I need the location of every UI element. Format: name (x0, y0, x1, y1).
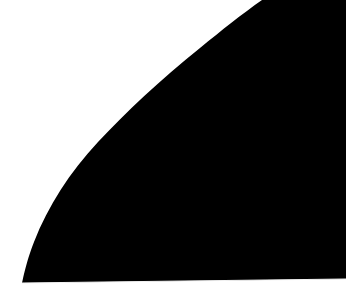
image-canvas: Solid black curved shape on a white back… (0, 0, 346, 304)
curved-black-mass (22, 0, 346, 283)
shape-layer (0, 0, 346, 304)
